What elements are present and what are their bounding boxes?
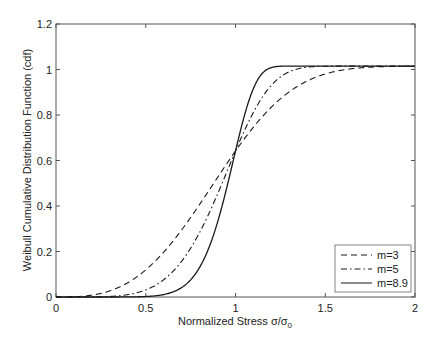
y-tick-label: 0 [46, 291, 52, 303]
x-tick-label: 2 [412, 302, 418, 314]
y-tick-label: 1 [46, 64, 52, 76]
x-tick-label: 0.5 [138, 302, 153, 314]
x-tick-label: 1 [232, 302, 238, 314]
y-tick-label: 0.8 [37, 109, 52, 121]
y-tick-label: 0.2 [37, 246, 52, 258]
legend: m=3 m=5 m=8.9 [335, 245, 411, 292]
legend-label-m5: m=5 [377, 263, 399, 275]
chart: 00.511.5200.20.40.60.811.2 Normalized St… [0, 0, 439, 341]
y-tick-label: 0.4 [37, 200, 52, 212]
x-tick-label: 0 [53, 302, 59, 314]
x-axis-label: Normalized Stress σ/σ0 [178, 315, 293, 330]
legend-label-m3: m=3 [377, 249, 399, 261]
y-tick-label: 1.2 [37, 18, 52, 30]
y-axis-label: Weibull Cumulative Distribution Function… [21, 49, 33, 271]
legend-label-m89: m=8.9 [377, 277, 408, 289]
y-tick-label: 0.6 [37, 155, 52, 167]
x-tick-label: 1.5 [318, 302, 333, 314]
